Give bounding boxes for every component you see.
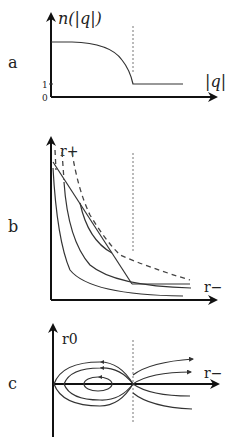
boundary-line — [53, 162, 132, 284]
panel-a-label: a — [8, 53, 18, 72]
panel-c: c r0 r− — [8, 325, 222, 437]
x-axis-label: |q| — [205, 72, 226, 91]
panel-b: b r+ r− — [8, 138, 222, 300]
x-axis-label: r− — [204, 279, 222, 295]
y-axis-label: n(|q|) — [58, 9, 102, 28]
x-axis-label: r− — [204, 365, 222, 381]
orbit-arrow — [100, 366, 104, 370]
tick-1: 1 — [42, 80, 48, 90]
panel-c-label: c — [8, 374, 17, 393]
flow-3 — [133, 384, 190, 396]
n-curve — [51, 42, 183, 84]
orbit-arrow — [100, 360, 104, 364]
orbit-arrow — [98, 375, 102, 379]
flow-2 — [133, 372, 191, 384]
panel-a: a n(|q|) |q| 1 0 — [8, 9, 226, 103]
figure: a n(|q|) |q| 1 0 b r+ r− c r0 r− — [0, 0, 231, 447]
dashed-envelope — [55, 150, 190, 280]
tick-0: 0 — [42, 93, 48, 103]
y-axis-label: r0 — [62, 331, 78, 347]
curve-3 — [80, 203, 190, 284]
panel-b-label: b — [8, 217, 18, 236]
